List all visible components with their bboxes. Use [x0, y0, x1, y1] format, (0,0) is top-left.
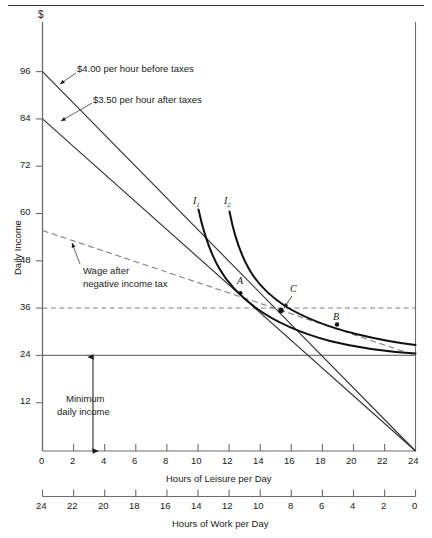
x2-tick-14: 14 [191, 501, 202, 512]
chart-svg [0, 0, 432, 538]
x2-tick-16: 16 [160, 501, 171, 512]
y-tick-24: 24 [20, 349, 31, 360]
x-tick-0: 0 [39, 456, 44, 467]
curve-label-i2: I2 [224, 195, 231, 209]
point-a-marker [239, 291, 243, 295]
annotation-after-taxes: $3.50 per hour after taxes [93, 95, 202, 106]
annotation-before-taxes: $4.00 per hour before taxes [77, 64, 194, 75]
y-tick-84: 84 [20, 113, 31, 124]
x2-tick-12: 12 [222, 501, 233, 512]
x-tick-12: 12 [222, 456, 233, 467]
x2-tick-2: 2 [381, 501, 386, 512]
x-tick-4: 4 [101, 456, 106, 467]
x-tick-10: 10 [191, 456, 202, 467]
annotation-negative-tax-line1: Wage after [83, 266, 129, 277]
leader-before-taxes [60, 73, 76, 84]
x2-tick-24: 24 [36, 501, 47, 512]
x2-tick-22: 22 [67, 501, 78, 512]
indifference-curve-i1 [199, 210, 416, 354]
annotation-minimum-line2: daily income [57, 407, 110, 418]
curve-label-i1-sub: 1 [196, 201, 200, 209]
y-tick-72: 72 [20, 160, 31, 171]
x-tick-16: 16 [284, 456, 295, 467]
x-tick-18: 18 [315, 456, 326, 467]
x-tick-24: 24 [408, 456, 419, 467]
x-tick-8: 8 [163, 456, 168, 467]
point-label-b: B [333, 311, 339, 323]
x-axis-title-leisure: Hours of Leisure per Day [166, 474, 272, 485]
y-tick-48: 48 [20, 255, 31, 266]
annotation-negative-tax-line2: negative income tax [83, 279, 168, 290]
x-tick-14: 14 [253, 456, 264, 467]
y-axis-title: Daily Income [12, 220, 23, 275]
x2-tick-18: 18 [129, 501, 140, 512]
figure-canvas: $ Daily Income 96 84 72 60 48 36 24 12 0… [0, 0, 432, 538]
x-tick-6: 6 [132, 456, 137, 467]
leader-point-c [284, 296, 292, 308]
x2-tick-20: 20 [98, 501, 109, 512]
x2-tick-4: 4 [350, 501, 355, 512]
y-tick-96: 96 [20, 66, 31, 77]
x-axis-ticks [43, 444, 416, 451]
x-tick-20: 20 [346, 456, 357, 467]
leader-negative-tax [72, 243, 80, 264]
curve-label-i1: I1 [193, 195, 200, 209]
y-tick-36: 36 [20, 302, 31, 313]
x-tick-22: 22 [377, 456, 388, 467]
x2-tick-6: 6 [319, 501, 324, 512]
indifference-curve-i2 [230, 212, 416, 346]
point-label-c: C [290, 283, 297, 295]
x-axis-title-work: Hours of Work per Day [172, 519, 268, 530]
y-axis-currency-symbol: $ [38, 9, 44, 21]
x2-tick-0: 0 [412, 501, 417, 512]
negative-income-tax-line [43, 231, 416, 356]
secondary-axis-ticks [43, 490, 416, 497]
y-axis-ticks [36, 72, 43, 403]
x-tick-2: 2 [70, 456, 75, 467]
y-tick-60: 60 [20, 207, 31, 218]
point-c-marker [278, 308, 283, 313]
y-tick-12: 12 [20, 396, 31, 407]
point-b-marker [335, 322, 339, 326]
annotation-minimum-line1: Minimum [66, 394, 105, 405]
x2-tick-10: 10 [253, 501, 264, 512]
point-label-a: A [237, 275, 243, 287]
curve-label-i2-sub: 2 [227, 201, 231, 209]
x2-tick-8: 8 [288, 501, 293, 512]
